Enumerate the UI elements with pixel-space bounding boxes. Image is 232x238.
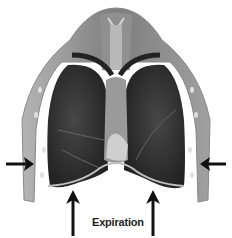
thorax-illustration [0, 0, 232, 238]
bottom-left-upward-arrow-icon [66, 190, 80, 236]
expiration-diagram: Expiration [0, 0, 232, 238]
expiration-label: Expiration [92, 216, 144, 228]
bottom-right-upward-arrow-icon [146, 190, 160, 236]
